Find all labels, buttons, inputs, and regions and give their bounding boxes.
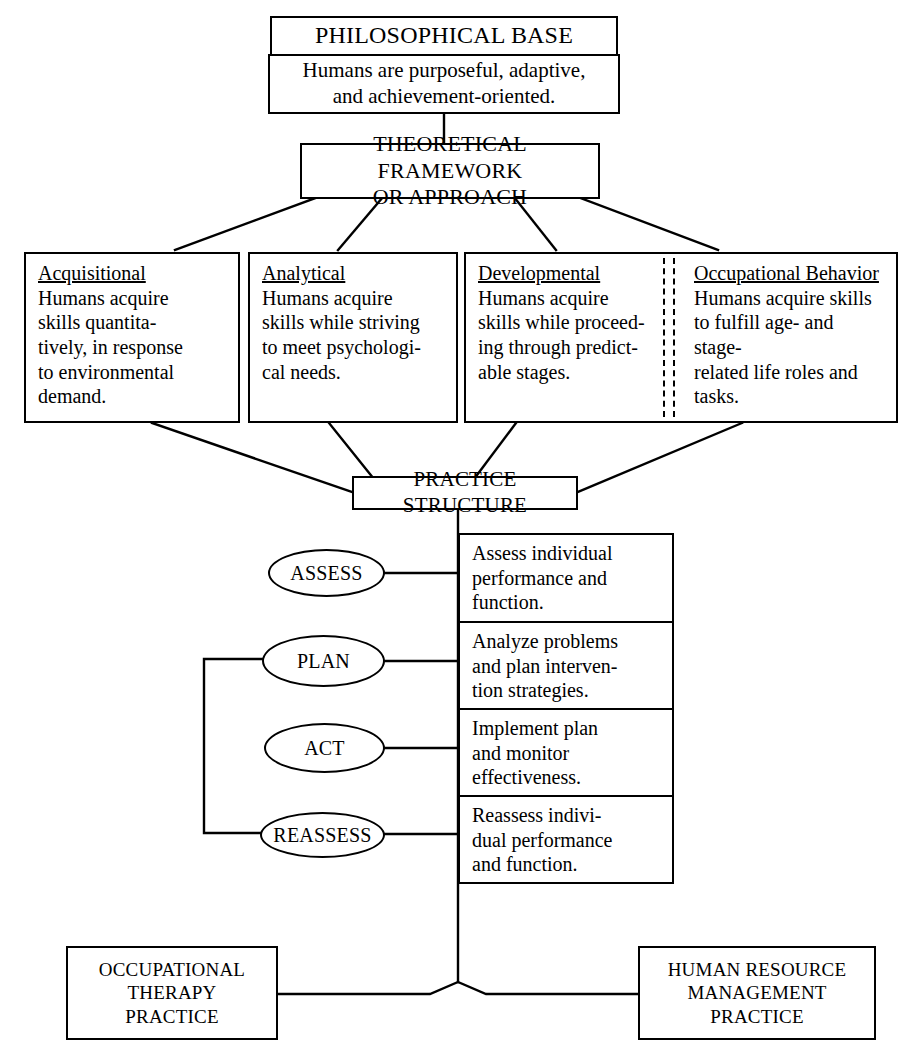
outcome-box-occupational-therapy-practice: OCCUPATIONAL THERAPY PRACTICE: [66, 946, 278, 1040]
process-step-reassess[interactable]: REASSESS: [260, 812, 385, 858]
process-plan-line-2: and plan interven-: [472, 655, 618, 677]
theoretical-framework-line-2: OR APPROACH: [373, 184, 527, 211]
process-step-act-label: ACT: [304, 737, 345, 760]
line-feedback-loop: [204, 659, 262, 833]
approach-box-analytical: Analytical Humans acquire skills while s…: [248, 252, 458, 423]
occupational-therapy-practice-diagram: PHILOSOPHICAL BASE Humans are purposeful…: [0, 0, 922, 1056]
approach-developmental-line-1: Humans acquire: [478, 287, 609, 309]
process-step-act[interactable]: ACT: [264, 723, 385, 773]
approach-analytical-line-3: to meet psychologi-: [262, 336, 421, 358]
approach-analytical-line-4: cal needs.: [262, 361, 341, 383]
approach-occupational-line-2: to fulfill age- and stage-: [694, 311, 833, 358]
process-step-assess-label: ASSESS: [290, 562, 362, 585]
approach-box-acquisitional: Acquisitional Humans acquire skills quan…: [24, 252, 240, 423]
process-plan-line-1: Analyze problems: [472, 630, 618, 652]
process-description-assess: Assess individual performance and functi…: [460, 535, 672, 623]
outcome-hr-line-2: MANAGEMENT: [687, 981, 826, 1004]
outcome-ot-line-3: PRACTICE: [125, 1005, 218, 1028]
process-step-assess[interactable]: ASSESS: [268, 549, 385, 597]
process-step-reassess-label: REASSESS: [273, 824, 371, 847]
process-description-reassess: Reassess indivi- dual performance and fu…: [460, 797, 672, 882]
process-act-line-2: and monitor: [472, 742, 569, 764]
approach-occupational-behavior-title: Occupational Behavior: [694, 261, 886, 286]
practice-structure-box: PRACTICE STRUCTURE: [352, 476, 578, 510]
approach-occupational-line-4: tasks.: [694, 385, 739, 407]
philosophical-base-header: PHILOSOPHICAL BASE: [270, 16, 618, 56]
approach-cell-occupational-behavior: Occupational Behavior Humans acquire ski…: [682, 254, 896, 421]
dashed-divider: [656, 254, 682, 421]
process-plan-line-3: tion strategies.: [472, 679, 589, 701]
approach-acquisitional-line-3: tively, in response: [38, 336, 183, 358]
approach-acquisitional-line-4: to environmental: [38, 361, 174, 383]
approach-acquisitional-line-1: Humans acquire: [38, 287, 169, 309]
approach-occupational-line-3: related life roles and: [694, 361, 858, 383]
process-step-plan[interactable]: PLAN: [262, 635, 385, 687]
process-assess-line-1: Assess individual: [472, 542, 613, 564]
theoretical-framework-box: THEORETICAL FRAMEWORK OR APPROACH: [300, 143, 600, 199]
line-outcome-junction: [278, 982, 638, 994]
outcome-hr-line-1: HUMAN RESOURCE: [668, 958, 847, 981]
process-description-act: Implement plan and monitor effectiveness…: [460, 710, 672, 797]
approach-box-developmental-occupational: Developmental Humans acquire skills whil…: [464, 252, 898, 423]
approach-analytical-line-2: skills while striving: [262, 311, 420, 333]
process-description-plan: Analyze problems and plan interven- tion…: [460, 623, 672, 710]
outcome-ot-line-2: THERAPY: [127, 981, 216, 1004]
line-occupational-to-practice: [578, 423, 742, 492]
approach-cell-developmental: Developmental Humans acquire skills whil…: [466, 254, 656, 421]
philosophical-base-statement: Humans are purposeful, adaptive, and ach…: [268, 54, 620, 114]
process-step-plan-label: PLAN: [297, 650, 350, 673]
approach-acquisitional-line-5: demand.: [38, 385, 106, 407]
process-assess-line-2: performance and: [472, 567, 607, 589]
process-reassess-line-2: dual performance: [472, 829, 612, 851]
process-reassess-line-3: and function.: [472, 853, 578, 875]
line-framework-to-acquisitional: [175, 197, 318, 250]
approach-analytical-title: Analytical: [262, 261, 446, 286]
process-assess-line-3: function.: [472, 591, 544, 613]
approach-developmental-line-2: skills while proceed-: [478, 311, 645, 333]
process-reassess-line-1: Reassess indivi-: [472, 804, 601, 826]
line-acquisitional-to-practice: [152, 423, 352, 492]
line-framework-to-occupational: [578, 197, 718, 250]
theoretical-framework-line-1: THEORETICAL FRAMEWORK: [302, 131, 598, 185]
outcome-box-human-resource-management-practice: HUMAN RESOURCE MANAGEMENT PRACTICE: [638, 946, 876, 1040]
approach-developmental-line-3: ing through predict-: [478, 336, 638, 358]
practice-structure-label: PRACTICE STRUCTURE: [354, 467, 576, 518]
process-act-line-1: Implement plan: [472, 717, 598, 739]
approach-occupational-line-1: Humans acquire skills: [694, 287, 872, 309]
outcome-hr-line-3: PRACTICE: [710, 1005, 803, 1028]
philosophical-base-statement-line-2: and achievement-oriented.: [333, 84, 556, 110]
approach-acquisitional-line-2: skills quantita-: [38, 311, 156, 333]
approach-analytical-line-1: Humans acquire: [262, 287, 393, 309]
philosophical-base-statement-line-1: Humans are purposeful, adaptive,: [303, 58, 586, 84]
outcome-ot-line-1: OCCUPATIONAL: [99, 958, 245, 981]
process-description-stack: Assess individual performance and functi…: [458, 533, 674, 884]
approach-acquisitional-title: Acquisitional: [38, 261, 228, 286]
approach-developmental-title: Developmental: [478, 261, 646, 286]
process-act-line-3: effectiveness.: [472, 766, 581, 788]
approach-developmental-line-4: able stages.: [478, 361, 570, 383]
philosophical-base-header-label: PHILOSOPHICAL BASE: [315, 21, 573, 50]
